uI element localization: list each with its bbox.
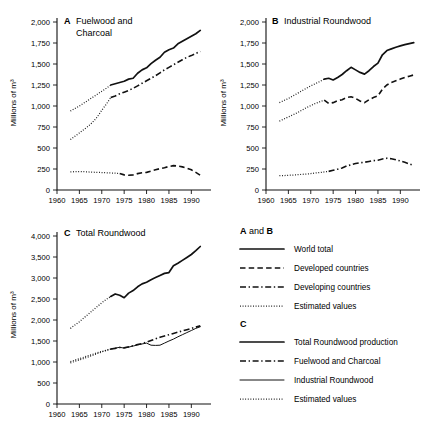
panel-a-title-line1: Fuelwood and: [76, 16, 133, 26]
series-line: [70, 296, 110, 328]
x-tick-label: 1975: [325, 196, 342, 205]
panel-c-y-tick-labels: 05001,0001,5002,0002,5003,0003,5004,000: [31, 232, 50, 409]
x-tick-label: 1970: [93, 196, 110, 205]
x-tick-label: 1980: [347, 196, 364, 205]
y-tick-label: 4,000: [31, 232, 50, 241]
legend-item-label: Industrial Roundwood: [294, 376, 374, 385]
y-tick-label: 500: [37, 144, 50, 153]
y-tick-label: 2,000: [31, 316, 50, 325]
x-tick-label: 1980: [138, 410, 155, 419]
y-tick-label: 1,500: [240, 60, 259, 69]
x-tick-label: 1975: [116, 196, 133, 205]
panel-c-svg: C Total Roundwood Millions of m³ 05001,0…: [0, 212, 215, 429]
panel-a-fuelwood-and-charcoal: A Fuelwood and Charcoal Millions of m³ 0…: [0, 0, 215, 215]
y-tick-label: 1,500: [31, 337, 50, 346]
y-tick-label: 0: [46, 400, 50, 409]
y-tick-label: 1,000: [240, 102, 259, 111]
y-tick-label: 0: [46, 186, 50, 195]
y-tick-label: 1,250: [240, 81, 259, 90]
series-line: [111, 51, 201, 97]
y-tick-label: 250: [246, 165, 259, 174]
panel-b-x-tick-labels: 1960196519701975198019851990: [258, 196, 409, 205]
series-line: [111, 30, 201, 85]
legend-group-c-heading: C: [240, 319, 247, 329]
panel-c-total-roundwood: C Total Roundwood Millions of m³ 05001,0…: [0, 212, 215, 429]
y-tick-label: 500: [37, 379, 50, 388]
panel-b-series: [279, 43, 413, 176]
panel-b-y-axis-label: Millions of m³: [219, 79, 228, 126]
panel-b-y-tick-labels: 02505007501,0001,2501,5001,7502,000: [240, 18, 259, 195]
panel-a-axes: [53, 18, 211, 194]
y-tick-label: 1,500: [31, 60, 50, 69]
x-tick-label: 1975: [116, 410, 133, 419]
legend-item-label: Fuelwood and Charcoal: [294, 357, 381, 366]
y-tick-label: 3,000: [31, 274, 50, 283]
x-tick-label: 1985: [160, 196, 177, 205]
y-tick-label: 0: [255, 186, 259, 195]
x-tick-label: 1960: [258, 196, 275, 205]
legend-ab-letter-b: B: [267, 226, 274, 236]
panel-b-letter: B: [272, 16, 279, 26]
series-line: [70, 172, 119, 174]
series-line: [324, 43, 414, 80]
y-tick-label: 2,000: [240, 18, 259, 27]
panel-c-title: Total Roundwood: [76, 228, 146, 238]
panel-a-letter: A: [64, 16, 71, 26]
y-tick-label: 2,500: [31, 295, 50, 304]
panel-b-title: Industrial Roundwood: [284, 16, 371, 26]
panel-c-title-group: C Total Roundwood: [64, 228, 146, 238]
panel-a-title-line2: Charcoal: [76, 28, 112, 38]
legend-c-items: Total Roundwood productionFuelwood and C…: [240, 338, 398, 404]
panel-b-title-group: B Industrial Roundwood: [272, 16, 371, 26]
panel-b-svg: B Industrial Roundwood Millions of m³ 02…: [214, 0, 429, 215]
x-tick-label: 1960: [49, 410, 66, 419]
panel-c-letter: C: [64, 228, 71, 238]
x-tick-label: 1965: [280, 196, 297, 205]
legend-item-label: Developing countries: [294, 283, 370, 292]
y-tick-label: 250: [37, 165, 50, 174]
series-line: [111, 247, 201, 298]
legend-svg: A and B World totalDeveloped countriesDe…: [214, 212, 429, 429]
legend-ab-items: World totalDeveloped countriesDeveloping…: [240, 245, 370, 311]
series-line: [324, 75, 414, 104]
x-tick-label: 1985: [369, 196, 386, 205]
y-tick-label: 750: [246, 123, 259, 132]
legend-item-label: Developed countries: [294, 264, 369, 273]
panel-c-y-axis-label: Millions of m³: [9, 291, 18, 338]
figure-root: A Fuelwood and Charcoal Millions of m³ 0…: [0, 0, 429, 429]
series-line: [279, 100, 324, 121]
panel-a-svg: A Fuelwood and Charcoal Millions of m³ 0…: [0, 0, 215, 215]
legend-panel: A and B World totalDeveloped countriesDe…: [214, 212, 429, 429]
legend-item-label: Estimated values: [294, 395, 356, 404]
x-tick-label: 1965: [71, 410, 88, 419]
x-tick-label: 1970: [93, 410, 110, 419]
x-tick-label: 1980: [138, 196, 155, 205]
panel-a-title-group: A Fuelwood and Charcoal: [64, 16, 133, 38]
y-tick-label: 3,500: [31, 253, 50, 262]
x-tick-label: 1965: [71, 196, 88, 205]
legend-item-label: Estimated values: [294, 302, 356, 311]
x-tick-label: 1990: [183, 410, 200, 419]
series-line: [70, 98, 110, 140]
y-tick-label: 500: [246, 144, 259, 153]
series-line: [120, 166, 201, 176]
y-tick-label: 1,000: [31, 102, 50, 111]
x-tick-label: 1990: [183, 196, 200, 205]
panel-c-series: [70, 247, 200, 363]
panel-a-y-tick-labels: 02505007501,0001,2501,5001,7502,000: [31, 18, 50, 195]
series-line: [279, 171, 328, 175]
x-tick-label: 1990: [392, 196, 409, 205]
panel-a-series: [70, 30, 200, 175]
legend-item-label: Total Roundwood production: [294, 338, 398, 347]
series-line: [329, 158, 414, 171]
panel-a-y-axis-label: Millions of m³: [9, 79, 18, 126]
y-tick-label: 1,000: [31, 358, 50, 367]
y-tick-label: 1,750: [240, 39, 259, 48]
x-tick-label: 1985: [160, 410, 177, 419]
series-line: [70, 349, 110, 363]
y-tick-label: 2,000: [31, 18, 50, 27]
legend-ab-and: and: [247, 226, 267, 236]
y-tick-label: 1,250: [31, 81, 50, 90]
legend-group-ab-heading: A and B: [240, 226, 274, 236]
y-tick-label: 1,750: [31, 39, 50, 48]
